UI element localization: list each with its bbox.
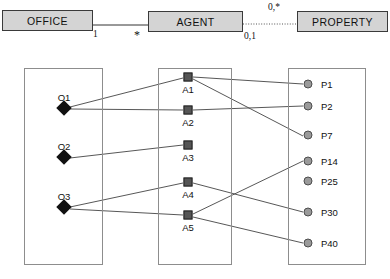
instance-label-P30: P30 (321, 207, 338, 218)
instance-label-P2: P2 (321, 101, 333, 112)
multiplicity-agent-side: * (134, 28, 140, 43)
entity-office[interactable]: OFFICE (2, 10, 93, 31)
instance-node-O3[interactable] (59, 202, 70, 213)
entity-agent[interactable]: AGENT (148, 11, 243, 32)
multiplicity-office-side: 1 (93, 29, 98, 39)
instance-node-P25[interactable] (304, 177, 313, 186)
instance-label-A1: A1 (182, 84, 194, 95)
multiplicity-property-side: 0,* (268, 2, 280, 12)
instance-label-P40: P40 (321, 238, 338, 249)
instance-node-O2[interactable] (59, 152, 70, 163)
circle-icon (304, 157, 313, 166)
circle-icon (304, 131, 313, 140)
circle-icon (304, 208, 313, 217)
instance-node-P7[interactable] (304, 131, 313, 140)
instance-node-P14[interactable] (304, 157, 313, 166)
instance-node-P2[interactable] (304, 102, 313, 111)
instance-node-A4[interactable] (184, 178, 193, 187)
instance-node-A3[interactable] (184, 141, 193, 150)
instance-label-A5: A5 (182, 222, 194, 233)
entity-property[interactable]: PROPERTY (297, 11, 388, 32)
circle-icon (304, 177, 313, 186)
instance-node-O1[interactable] (59, 103, 70, 114)
instance-label-O2: O2 (58, 141, 71, 152)
square-icon (184, 73, 193, 82)
instance-label-P25: P25 (321, 176, 338, 187)
instance-label-A4: A4 (182, 189, 194, 200)
instance-node-A2[interactable] (184, 106, 193, 115)
instance-label-A2: A2 (182, 117, 194, 128)
instance-node-P40[interactable] (304, 239, 313, 248)
instance-node-P1[interactable] (304, 80, 313, 89)
er-instance-diagram: OFFICE AGENT PROPERTY 1 * 0,1 0,* O1 O2 … (0, 0, 390, 279)
square-icon (184, 106, 193, 115)
instance-label-P14: P14 (321, 156, 338, 167)
square-icon (184, 211, 193, 220)
instance-label-A3: A3 (182, 152, 194, 163)
instance-node-P30[interactable] (304, 208, 313, 217)
circle-icon (304, 80, 313, 89)
square-icon (184, 178, 193, 187)
instance-node-A1[interactable] (184, 73, 193, 82)
instance-label-P7: P7 (321, 130, 333, 141)
instance-node-A5[interactable] (184, 211, 193, 220)
instance-label-O3: O3 (58, 191, 71, 202)
circle-icon (304, 102, 313, 111)
panel-property-instances (288, 68, 366, 265)
square-icon (184, 141, 193, 150)
panel-agent-instances (158, 68, 232, 265)
instance-label-O1: O1 (58, 92, 71, 103)
multiplicity-agent-property-side: 0,1 (244, 31, 256, 41)
instance-label-P1: P1 (321, 79, 333, 90)
circle-icon (304, 239, 313, 248)
